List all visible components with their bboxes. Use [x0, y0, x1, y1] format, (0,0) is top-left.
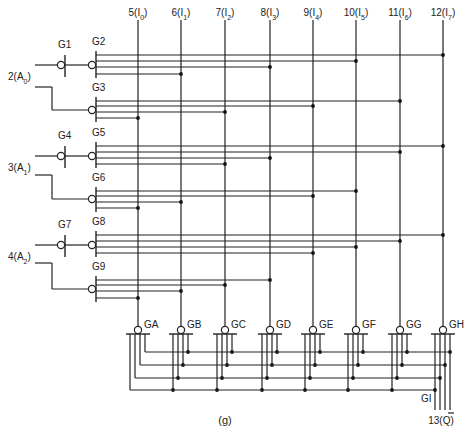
gate-GG-bubble — [396, 326, 403, 333]
gate-label-GH: GH — [449, 319, 464, 330]
gate-label-G9: G9 — [92, 261, 106, 272]
gate-GD-bubble — [266, 326, 273, 333]
input-label-I6: 11(I6) — [388, 7, 412, 21]
gate-label-GA: GA — [144, 319, 159, 330]
inverter-G1-bubble — [57, 61, 64, 68]
junction-dot — [223, 283, 227, 287]
gate-label-G6: G6 — [92, 172, 106, 183]
junction-dot — [179, 289, 183, 293]
gate-label-G2: G2 — [92, 36, 106, 47]
inverter-G4-bubble — [57, 152, 64, 159]
output-label-Q: 13(Q) — [428, 415, 454, 426]
input-label-I1: 6(I1) — [172, 7, 191, 21]
junction-dot — [398, 239, 402, 243]
gate-GF-bubble — [352, 326, 359, 333]
junction-dot — [441, 233, 445, 237]
gate-label-G8: G8 — [92, 216, 106, 227]
junction-dot — [441, 53, 445, 57]
gate-label-GB: GB — [187, 319, 202, 330]
gate-label-G4: G4 — [58, 130, 72, 141]
gate-G8-bubble — [88, 241, 95, 248]
gate-GH-bubble — [439, 326, 446, 333]
multiplexer-circuit-diagram: 5(I0)6(I1)7(I2)8(I3)9(I4)10(I5)11(I6)12(… — [0, 0, 471, 437]
input-label-I3: 8(I3) — [261, 7, 280, 21]
gate-GC-bubble — [221, 326, 228, 333]
junction-dot — [136, 206, 140, 210]
gate-GB-bubble — [177, 326, 184, 333]
gate-label-G3: G3 — [92, 82, 106, 93]
gate-label-GG: GG — [406, 319, 422, 330]
gate-label-GF: GF — [362, 319, 376, 330]
gate-G2-bubble — [88, 61, 95, 68]
junction-dot — [398, 150, 402, 154]
figure-caption: (g) — [218, 414, 231, 426]
junction-dot — [311, 194, 315, 198]
gate-G5-bubble — [88, 152, 95, 159]
junction-dot — [223, 110, 227, 114]
gate-G9-bubble — [88, 285, 95, 292]
inverter-G7-bubble — [57, 241, 64, 248]
address-label-A0: 2(A0) — [8, 71, 31, 85]
junction-dot — [136, 116, 140, 120]
junction-dot — [354, 189, 358, 193]
address-label-A2: 4(A2) — [8, 251, 31, 265]
junction-dot — [179, 72, 183, 76]
junction-dot — [223, 162, 227, 166]
gate-label-GD: GD — [276, 319, 291, 330]
input-label-I5: 10(I5) — [344, 7, 368, 21]
junction-dot — [268, 65, 272, 69]
junction-dot — [268, 156, 272, 160]
input-label-I0: 5(I0) — [129, 7, 148, 21]
gate-G3-bubble — [88, 106, 95, 113]
gate-label-GE: GE — [319, 319, 334, 330]
gate-label-G5: G5 — [92, 127, 106, 138]
gate-label-G1: G1 — [58, 39, 72, 50]
gate-GE-bubble — [309, 326, 316, 333]
gate-G6-bubble — [88, 195, 95, 202]
junction-dot — [441, 144, 445, 148]
junction-dot — [398, 99, 402, 103]
junction-dot — [268, 278, 272, 282]
gate-label-G7: G7 — [58, 219, 72, 230]
junction-dot — [354, 245, 358, 249]
address-label-A1: 3(A1) — [8, 162, 31, 176]
junction-dot — [354, 59, 358, 63]
input-label-I2: 7(I2) — [216, 7, 235, 21]
input-label-I7: 12(I7) — [431, 7, 455, 21]
gate-label-GC: GC — [231, 319, 246, 330]
junction-dot — [311, 251, 315, 255]
junction-dot — [136, 296, 140, 300]
junction-dot — [179, 200, 183, 204]
gate-GA-bubble — [134, 326, 141, 333]
gate-label-GI: GI — [421, 393, 432, 404]
input-label-I4: 9(I4) — [304, 7, 323, 21]
junction-dot — [311, 104, 315, 108]
